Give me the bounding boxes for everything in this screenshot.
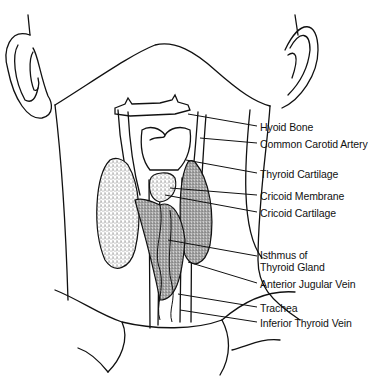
label-isthmus-line1: Isthmus of bbox=[260, 249, 307, 261]
label-thyroid-cartilage: Thyroid Cartilage bbox=[260, 168, 338, 180]
right-ear bbox=[282, 15, 318, 108]
label-inferior-thyroid-vein: Inferior Thyroid Vein bbox=[260, 317, 352, 329]
shoulders bbox=[55, 290, 125, 372]
thyroid-gland bbox=[97, 158, 212, 300]
thyroid-cartilage bbox=[141, 128, 190, 170]
label-cricoid-cartilage: Cricoid Cartilage bbox=[260, 207, 336, 219]
cricoid bbox=[149, 173, 175, 202]
label-anterior-jugular-vein: Anterior Jugular Vein bbox=[260, 278, 355, 290]
label-common-carotid-artery: Common Carotid Artery bbox=[260, 138, 368, 150]
label-isthmus-line2: Thyroid Gland bbox=[260, 261, 325, 273]
label-hyoid-bone: Hyoid Bone bbox=[260, 121, 313, 133]
neck-left-side bbox=[55, 105, 68, 300]
thyroid-isthmus bbox=[135, 199, 185, 300]
label-cricoid-membrane: Cricoid Membrane bbox=[260, 190, 344, 202]
label-trachea: Trachea bbox=[260, 302, 297, 314]
thyroid-left-lobe bbox=[97, 158, 139, 268]
jaw-outline bbox=[55, 44, 270, 106]
left-ear bbox=[6, 15, 51, 118]
hyoid-bone bbox=[115, 95, 190, 116]
